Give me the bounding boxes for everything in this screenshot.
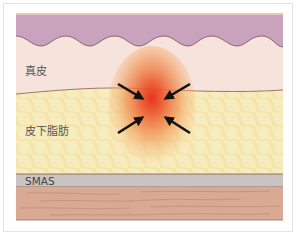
smas-layer: [16, 174, 283, 187]
top-edge-line: [16, 13, 283, 15]
skin-layers-diagram: [0, 0, 302, 238]
dermis-label: 真皮: [25, 66, 47, 77]
smas-label: SMAS: [25, 176, 55, 187]
subcutaneous-fat-label: 皮下脂肪: [25, 126, 69, 137]
heat-spot: [108, 46, 196, 170]
